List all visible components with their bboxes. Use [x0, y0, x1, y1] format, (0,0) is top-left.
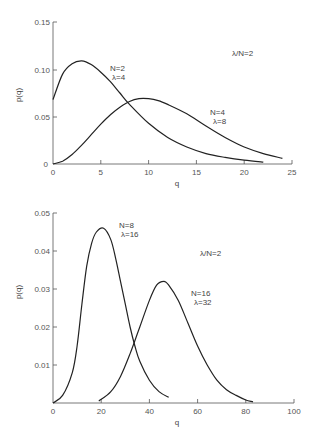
series-line-n16 [99, 281, 253, 402]
top-ratio-annotation: λ/N=2 [232, 49, 254, 58]
bottom-ratio-annotation: λ/N=2 [200, 249, 222, 258]
bottom-xtick-label: 100 [287, 407, 301, 416]
bottom-ytick-label: 0.02 [34, 323, 50, 332]
top-y-axis-label: p(q) [14, 88, 23, 103]
bottom-x-axis-label: q [175, 418, 179, 427]
top-xtick-label: 15 [192, 168, 201, 177]
bottom-series2-label-n: N=16 [191, 289, 211, 298]
top-series2-label-n: N=4 [210, 108, 225, 117]
series-line-n4 [53, 98, 282, 164]
top-xtick-label: 0 [51, 168, 56, 177]
bottom-series1-label-n: N=8 [119, 221, 134, 230]
bottom-y-axis-label: p(q) [14, 285, 23, 300]
figure: 0.15 0.10 0.05 0 0 5 10 15 20 25 q p(q) … [0, 0, 319, 439]
top-series1-label-n: N=2 [110, 64, 125, 73]
top-series1-label-lambda: λ=4 [112, 73, 126, 82]
bottom-x-axis [53, 399, 294, 403]
bottom-xtick-label: 80 [241, 407, 250, 416]
top-chart: 0.15 0.10 0.05 0 0 5 10 15 20 25 q p(q) … [14, 18, 297, 188]
bottom-series2-label-lambda: λ=32 [194, 298, 212, 307]
bottom-ytick-label: 0.01 [34, 361, 50, 370]
bottom-xtick-label: 40 [145, 407, 154, 416]
top-xtick-label: 20 [240, 168, 249, 177]
top-ytick-label: 0.05 [34, 113, 50, 122]
top-series2-label-lambda: λ=8 [213, 117, 227, 126]
top-xtick-label: 25 [288, 168, 297, 177]
series-line-n2 [53, 61, 263, 162]
bottom-series1-label-lambda: λ=16 [121, 230, 139, 239]
bottom-y-axis [53, 213, 57, 403]
top-ytick-label: 0.15 [34, 18, 50, 27]
bottom-ytick-label: 0.04 [34, 247, 50, 256]
bottom-chart: 0.05 0.04 0.03 0.02 0.01 0 20 40 60 80 1… [14, 209, 301, 427]
series-line-n8 [53, 228, 169, 403]
top-xtick-label: 5 [99, 168, 104, 177]
bottom-xtick-label: 0 [51, 407, 56, 416]
bottom-ytick-label: 0.03 [34, 285, 50, 294]
top-x-axis-label: q [175, 179, 179, 188]
top-xtick-label: 10 [144, 168, 153, 177]
bottom-ytick-label: 0.05 [34, 209, 50, 218]
bottom-xtick-label: 60 [193, 407, 202, 416]
top-ytick-label: 0 [44, 160, 49, 169]
top-ytick-label: 0.10 [34, 66, 50, 75]
bottom-xtick-label: 20 [97, 407, 106, 416]
